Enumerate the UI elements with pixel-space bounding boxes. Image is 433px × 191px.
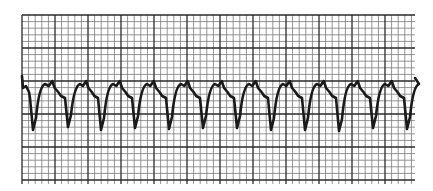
ecg-strip: [0, 0, 433, 191]
paper-background: [0, 0, 433, 191]
